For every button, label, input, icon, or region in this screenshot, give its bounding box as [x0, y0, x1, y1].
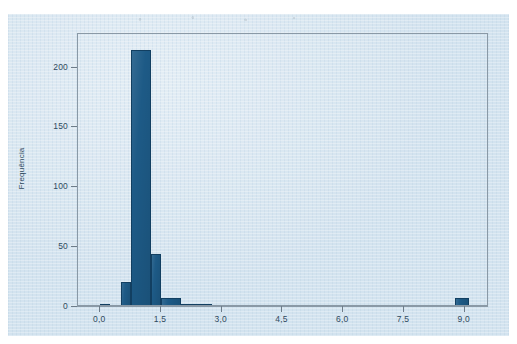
y-axis-tick-label: 0 [63, 301, 68, 311]
histogram-bar [455, 298, 469, 305]
x-axis-tick-label: 6,0 [336, 314, 348, 324]
histogram-bar [161, 298, 181, 305]
x-axis-tick [403, 306, 404, 312]
scan-artifact [118, 14, 338, 23]
histogram-bar [131, 50, 151, 305]
plot-frame [77, 33, 488, 306]
x-axis-tick-label: 4,5 [275, 314, 287, 324]
figure-canvas: Frequência 050100150200 0,01,53,04,56,07… [8, 14, 509, 336]
y-axis-tick-label: 50 [58, 241, 68, 251]
y-axis-tick-label: 200 [53, 62, 68, 72]
x-axis-tick-label: 9,0 [457, 314, 469, 324]
y-axis-tick-labels: 050100150200 [38, 14, 68, 336]
y-axis-tick-label: 100 [53, 181, 68, 191]
y-axis-title: Frequência [17, 134, 26, 204]
histogram-bar [151, 254, 161, 305]
x-axis-tick [160, 306, 161, 312]
y-axis-tick-label: 150 [53, 121, 68, 131]
x-axis-line [77, 306, 488, 307]
x-axis-tick [99, 306, 100, 312]
plot-area [78, 34, 487, 305]
x-axis-tick [221, 306, 222, 312]
x-axis-tick-label: 7,5 [397, 314, 409, 324]
x-axis-tick-label: 0,0 [93, 314, 105, 324]
x-axis-tick-label: 1,5 [154, 314, 166, 324]
x-axis-tick [342, 306, 343, 312]
histogram-bar [181, 304, 211, 306]
x-axis-tick-label: 3,0 [215, 314, 227, 324]
histogram-bar [121, 282, 131, 305]
x-axis-tick [281, 306, 282, 312]
histogram-bar [100, 304, 110, 306]
x-axis-tick [464, 306, 465, 312]
